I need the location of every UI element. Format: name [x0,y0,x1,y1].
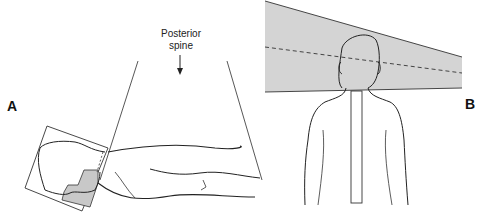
beam-edge-left [100,61,138,180]
beam-edge-right [227,61,262,180]
arm-outline [150,169,260,178]
shielding-block [62,170,98,207]
torso-left [305,88,346,205]
body-back-outline [108,145,241,152]
diagram-canvas [0,0,480,212]
treatment-field-shade [265,1,462,92]
panel-label-a: A [7,98,17,114]
posterior-spine-label: Posterior spine [153,28,209,52]
panel-label-b: B [465,96,475,112]
body-front-outline [98,183,255,199]
torso-right [368,88,408,205]
spine-field [351,91,362,203]
